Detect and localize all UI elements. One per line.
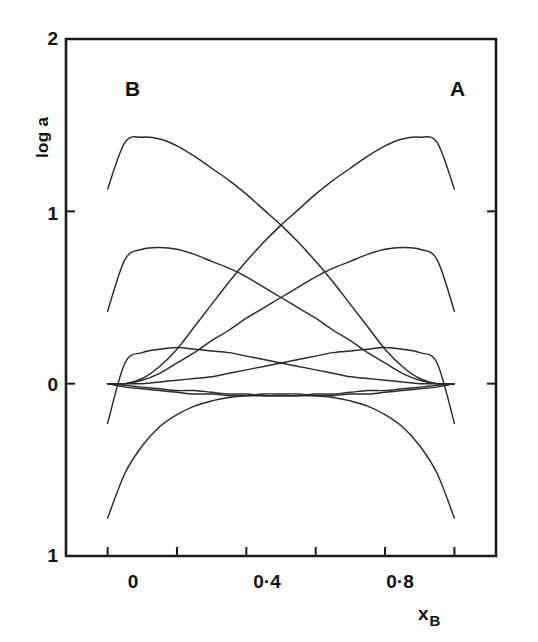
x-axis-title-subscript: B: [430, 612, 441, 629]
component-label-a: A: [450, 78, 465, 99]
data-curves: [108, 137, 455, 518]
curve-1: [108, 137, 455, 384]
y-tick-label-2: 2: [18, 29, 58, 48]
curve-0: [108, 137, 455, 384]
component-label-b: B: [125, 78, 140, 99]
x-tick-label-0: 0: [103, 572, 163, 591]
y-tick-label-minus-1: 1: [18, 546, 58, 565]
y-tick-label-0: 0: [18, 375, 58, 394]
curve-8: [108, 394, 455, 518]
x-axis-title-main: x: [418, 603, 429, 624]
y-axis-title: log a: [34, 117, 51, 158]
x-tick-label-0-8: 0·8: [370, 572, 430, 591]
curve-4: [108, 347, 455, 423]
y-tick-label-1: 1: [18, 204, 58, 223]
x-tick-label-0-4: 0·4: [237, 572, 297, 591]
x-axis-title: xB: [418, 604, 440, 628]
curve-5: [108, 347, 455, 423]
figure-canvas: log a 2 1 0 1 0 0·4 0·8 xB B A: [0, 0, 538, 642]
